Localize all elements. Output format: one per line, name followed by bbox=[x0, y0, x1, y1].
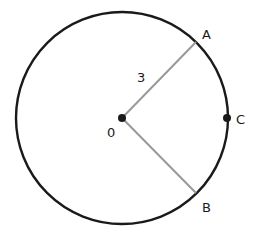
radius-length-label: 3 bbox=[137, 70, 145, 85]
point-c-label: C bbox=[236, 112, 245, 127]
radius-segment-0b bbox=[122, 118, 196, 193]
point-c bbox=[223, 114, 231, 122]
circle-diagram: 3 0 A B C bbox=[0, 0, 257, 233]
point-a-label: A bbox=[202, 27, 211, 42]
point-b-label: B bbox=[202, 200, 211, 215]
radius-segment-0a bbox=[122, 42, 196, 118]
center-point bbox=[118, 114, 126, 122]
center-label: 0 bbox=[107, 125, 115, 140]
